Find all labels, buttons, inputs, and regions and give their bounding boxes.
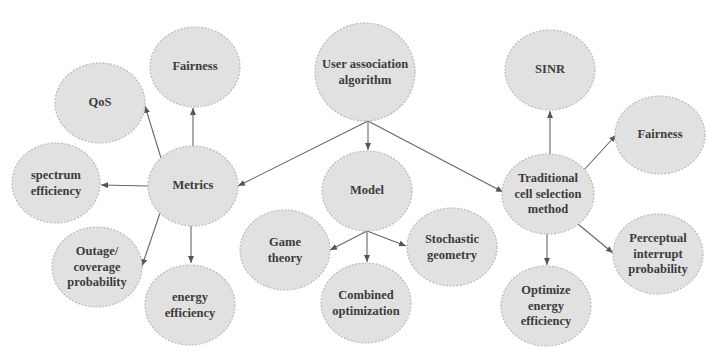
node-stochastic-geometry-target — [407, 208, 497, 286]
edge-traditional-cell-selection-method-to-perceptual-interrupt-probability — [578, 224, 613, 253]
node-combined-optimization-target — [321, 263, 411, 343]
edge-traditional-cell-selection-method-to-fairness-traditional — [584, 135, 616, 170]
node-metrics-target — [148, 146, 238, 226]
node-outage-coverage-probability-target — [52, 227, 142, 307]
node-sinr-target — [505, 30, 595, 110]
edge-metrics-to-outage-coverage-probability — [142, 213, 160, 266]
node-user-association-algorithm-target — [315, 23, 415, 121]
node-qos-target — [55, 63, 145, 143]
node-fairness-traditional-target — [615, 96, 705, 174]
node-optimize-energy-efficiency-target — [501, 266, 591, 346]
node-energy-efficiency-target — [145, 265, 235, 345]
node-perceptual-interrupt-probability-target — [613, 214, 703, 294]
edge-metrics-to-spectrum-efficiency — [101, 185, 148, 186]
node-game-theory-target — [240, 210, 330, 290]
edge-model-to-stochastic-geometry — [367, 231, 406, 246]
edge-model-to-game-theory — [330, 231, 367, 250]
node-traditional-cell-selection-method-target — [502, 154, 594, 234]
edge-metrics-to-qos — [145, 106, 161, 158]
node-model-target — [322, 151, 412, 231]
node-fairness-metrics-target — [150, 27, 240, 107]
node-spectrum-efficiency-target — [12, 143, 100, 223]
